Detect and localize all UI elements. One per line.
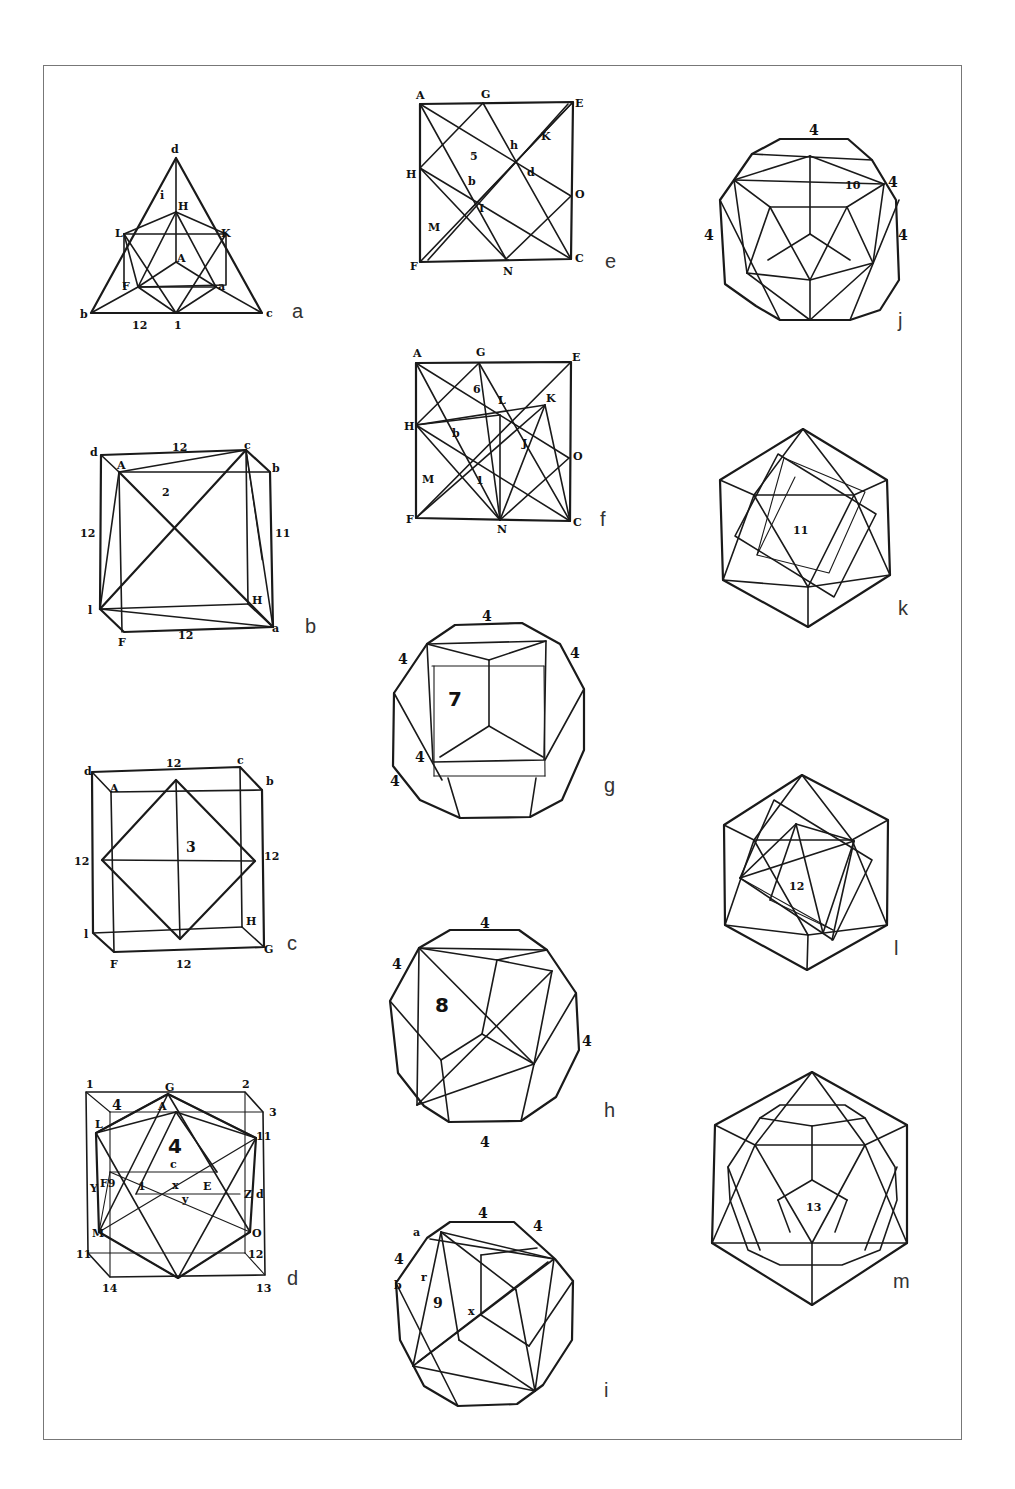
label-d-A: A — [157, 1100, 167, 1113]
figure-i: 4 4 4 a b r 9 x i — [394, 1205, 608, 1406]
label-c-H: H — [246, 915, 256, 928]
caption-b: b — [305, 615, 316, 637]
caption-h: h — [604, 1099, 615, 1121]
figure-number-m: 13 — [806, 1201, 821, 1214]
figure-b: d A 12 c b 2 12 11 l H a F 12 b — [80, 439, 316, 649]
label-a-b: b — [80, 308, 88, 321]
label-a-c: c — [266, 307, 273, 320]
label-d-11r: 11 — [256, 1130, 271, 1143]
label-d-G: G — [165, 1081, 174, 1094]
label-d-11l: 11 — [76, 1248, 91, 1261]
label-c-d: d — [84, 765, 92, 778]
caption-i: i — [604, 1379, 608, 1401]
label-c-b: b — [266, 775, 274, 788]
edge-label-i-top: 4 — [478, 1205, 488, 1221]
edge-label-h-right: 4 — [582, 1033, 592, 1049]
label-f-E: E — [572, 351, 580, 364]
caption-f: f — [600, 508, 606, 530]
edge-label-g-upper-left: 4 — [398, 651, 408, 667]
label-c-3: 3 — [186, 839, 196, 855]
label-d-Y: Y — [89, 1182, 98, 1195]
label-f-H: H — [404, 420, 414, 433]
label-d-3: 3 — [269, 1106, 277, 1119]
edge-label-j-upper-right: 4 — [888, 174, 898, 190]
label-i-x: x — [468, 1305, 475, 1318]
edge-label-h-bottom: 4 — [480, 1134, 490, 1150]
label-d-c: c — [170, 1158, 177, 1171]
label-e-N: N — [503, 265, 513, 278]
caption-j: j — [897, 309, 902, 331]
label-f-M: M — [422, 473, 434, 486]
label-d-x: x — [172, 1179, 179, 1192]
label-e-O: O — [575, 188, 585, 201]
figure-d: 1 G 2 4 A L 3 4 11 c Y F9 1 x E Z d y M … — [76, 1078, 298, 1295]
label-a-1: 1 — [174, 319, 182, 332]
label-e-M: M — [428, 221, 440, 234]
label-b-top12: 12 — [172, 441, 187, 454]
caption-l: l — [894, 937, 898, 959]
figure-h: 4 4 4 4 8 h — [390, 915, 615, 1150]
label-e-5: 5 — [470, 150, 478, 163]
label-c-c: c — [237, 754, 244, 767]
label-a-g: a — [218, 280, 225, 293]
edge-label-j-top: 4 — [809, 122, 819, 138]
label-c-g: G — [264, 943, 273, 956]
label-d-z: 2 — [242, 1078, 250, 1091]
label-d-14: 14 — [102, 1282, 118, 1295]
label-c-left12: 12 — [74, 855, 89, 868]
label-a-A: A — [176, 252, 186, 265]
figure-e: A G E H O F N C M I K h 5 b d e — [406, 88, 616, 278]
label-c-A: A — [109, 782, 119, 795]
edge-label-h-top: 4 — [480, 915, 490, 931]
figure-number-i: 9 — [433, 1295, 443, 1311]
label-f-C: C — [573, 516, 582, 529]
figure-number-h: 8 — [435, 993, 449, 1017]
edge-label-g-upper-right: 4 — [570, 645, 580, 661]
label-d-Z: Z — [244, 1188, 252, 1201]
figure-number-k: 11 — [793, 524, 808, 537]
label-a-K: K — [221, 227, 231, 240]
label-b-right12: 11 — [275, 527, 290, 540]
label-d-O: O — [252, 1227, 262, 1240]
label-d-L: L — [95, 1118, 103, 1131]
label-b-b: b — [272, 462, 280, 475]
label-d-1: 1 — [86, 1078, 94, 1091]
edge-label-j-left: 4 — [704, 227, 714, 243]
figure-c: d A 12 c b 3 12 12 l H G F 12 c — [74, 754, 297, 971]
label-d-4a: 4 — [112, 1097, 122, 1113]
figure-number-g: 7 — [448, 687, 462, 711]
figure-l: 12 l — [724, 775, 898, 970]
caption-g: g — [604, 774, 615, 796]
label-e-d: d — [527, 166, 535, 179]
label-b-left12: 12 — [80, 527, 95, 540]
label-f-K: K — [546, 392, 556, 405]
label-b-d: d — [90, 446, 98, 459]
polyhedra-plate: d i H L K A F a b c 12 1 a d A 12 c b 2 … — [0, 0, 1015, 1489]
caption-k: k — [898, 597, 909, 619]
label-a-L: L — [115, 227, 123, 240]
label-f-b: b — [452, 427, 460, 440]
label-d-E: E — [203, 1180, 211, 1193]
caption-e: e — [605, 250, 616, 272]
edge-label-g-lower-left: 4 — [390, 773, 400, 789]
label-c-l: l — [84, 928, 88, 941]
figure-number-j: 10 — [845, 179, 861, 192]
label-b-bottom12: 12 — [178, 629, 193, 642]
label-b-A: A — [116, 459, 126, 472]
figure-j: 4 4 4 4 10 j — [704, 122, 908, 331]
figure-g: 4 4 4 4 4 7 g — [390, 608, 615, 818]
label-d-12: 12 — [248, 1248, 263, 1261]
label-c-F: F — [110, 958, 118, 971]
label-f-N: N — [497, 523, 507, 536]
label-c-bottom12: 12 — [176, 958, 191, 971]
label-d-4b: 4 — [168, 1134, 182, 1158]
label-d-M: M — [92, 1227, 104, 1240]
label-c-top12: 12 — [166, 757, 181, 770]
label-e-F: F — [410, 260, 418, 273]
label-e-A: A — [415, 89, 425, 102]
figure-m: 13 m — [712, 1072, 910, 1305]
label-i-r: r — [421, 1271, 427, 1284]
label-d-F9: F9 — [100, 1177, 115, 1190]
edge-label-j-right: 4 — [898, 227, 908, 243]
label-a-12: 12 — [132, 319, 147, 332]
